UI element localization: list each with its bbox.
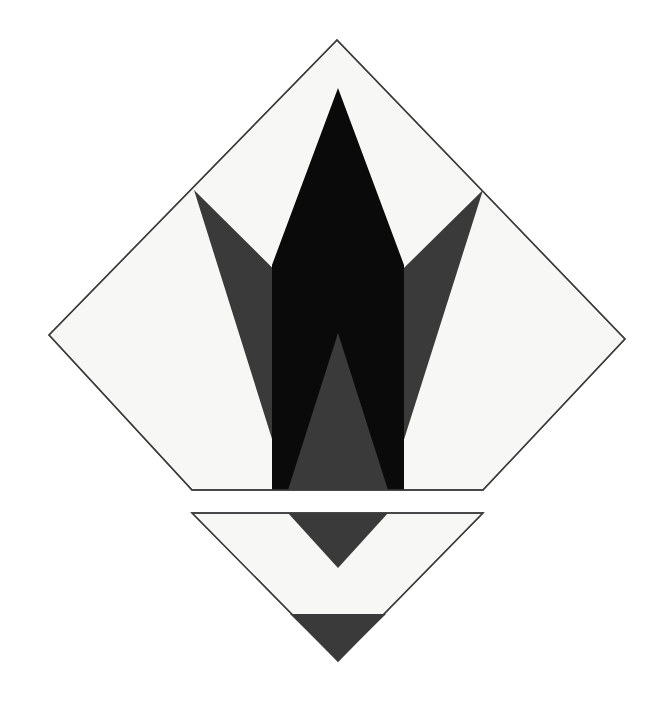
composition-canvas bbox=[0, 0, 671, 716]
artboard bbox=[0, 0, 671, 716]
